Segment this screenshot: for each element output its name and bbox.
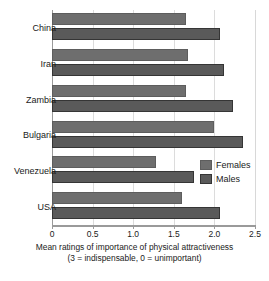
x-axis-line bbox=[52, 225, 256, 227]
category-label-venezuela: Venezuela bbox=[14, 166, 56, 176]
x-axis-tick-label: 2.0 bbox=[208, 229, 220, 239]
x-axis-title-line-2: (3 = indispensable, 0 = unimportant) bbox=[0, 253, 269, 264]
bar-chart: ChinaIranZambiaBulgariaVenezuelaUSA 00.5… bbox=[0, 0, 269, 281]
x-axis-tick-label: 1.5 bbox=[168, 229, 180, 239]
bar-females-china bbox=[52, 13, 186, 25]
category-label-usa: USA bbox=[37, 202, 56, 212]
bar-row: Zambia bbox=[0, 82, 269, 118]
bar-males-zambia bbox=[52, 100, 233, 112]
bar-females-iran bbox=[52, 49, 188, 61]
bar-males-venezuela bbox=[52, 171, 194, 183]
bar-row: USA bbox=[0, 189, 269, 225]
bar-males-usa bbox=[52, 207, 220, 219]
bar-females-bulgaria bbox=[52, 121, 214, 133]
x-axis-tick-label: 1.0 bbox=[127, 229, 139, 239]
legend: FemalesMales bbox=[198, 156, 253, 188]
bar-row: Iran bbox=[0, 46, 269, 82]
bar-females-usa bbox=[52, 192, 182, 204]
x-axis-tick-label: 2.5 bbox=[249, 229, 261, 239]
category-label-iran: Iran bbox=[40, 59, 56, 69]
bar-males-china bbox=[52, 28, 220, 40]
legend-label-males: Males bbox=[216, 174, 240, 184]
bar-row: Bulgaria bbox=[0, 118, 269, 154]
category-label-zambia: Zambia bbox=[26, 95, 56, 105]
x-axis-tick-label: 0 bbox=[50, 229, 55, 239]
bar-row: China bbox=[0, 10, 269, 46]
category-label-bulgaria: Bulgaria bbox=[23, 130, 56, 140]
legend-swatch-males bbox=[200, 174, 212, 184]
legend-label-females: Females bbox=[216, 160, 251, 170]
bar-females-venezuela bbox=[52, 156, 156, 168]
x-axis-title-line-1: Mean ratings of importance of physical a… bbox=[36, 242, 233, 252]
category-label-china: China bbox=[32, 23, 56, 33]
bar-males-bulgaria bbox=[52, 136, 243, 148]
legend-item-females: Females bbox=[200, 158, 251, 171]
bar-males-iran bbox=[52, 64, 224, 76]
bar-females-zambia bbox=[52, 85, 186, 97]
x-axis-title: Mean ratings of importance of physical a… bbox=[0, 242, 269, 264]
legend-item-males: Males bbox=[200, 172, 251, 185]
x-axis-tick-label: 0.5 bbox=[87, 229, 99, 239]
legend-swatch-females bbox=[200, 160, 212, 170]
